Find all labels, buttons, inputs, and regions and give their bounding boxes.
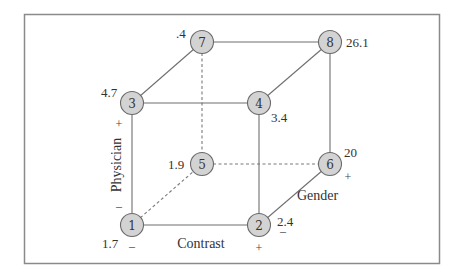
value-node-6: 20	[344, 145, 357, 160]
value-node-8: 26.1	[346, 35, 369, 50]
node-7: 7	[191, 31, 214, 54]
node-label: 7	[198, 36, 206, 50]
contrast-low-sign: –	[128, 239, 136, 253]
node-label: 4	[255, 97, 263, 111]
node-2: 2	[248, 214, 271, 237]
axis-label-gender: Gender	[297, 188, 339, 203]
node-label: 3	[128, 97, 136, 111]
physician-high-sign: +	[116, 117, 123, 131]
node-label: 6	[326, 158, 334, 172]
axis-label-physician: Physician	[109, 138, 124, 192]
value-node-1: 1.7	[102, 236, 119, 251]
node-3: 3	[121, 92, 144, 115]
node-6: 6	[319, 153, 342, 176]
contrast-high-sign: +	[256, 241, 263, 255]
value-node-7: .4	[176, 26, 186, 41]
cube-diagram: 7 8 3 4 5 6 1 2 .4 26.1 4.7 3.4 1.9 20 1…	[0, 0, 462, 278]
node-label: 8	[326, 36, 334, 50]
node-label: 1	[128, 219, 136, 233]
node-4: 4	[248, 92, 271, 115]
value-node-4: 3.4	[271, 110, 288, 125]
gender-high-sign: +	[345, 170, 352, 184]
node-5: 5	[191, 153, 214, 176]
node-label: 5	[198, 158, 206, 172]
axis-label-contrast: Contrast	[177, 236, 225, 251]
node-label: 2	[255, 219, 263, 233]
node-1: 1	[121, 214, 144, 237]
gender-low-sign: –	[279, 224, 287, 238]
diagram-frame	[25, 15, 440, 264]
value-node-5: 1.9	[168, 157, 184, 172]
node-8: 8	[319, 31, 342, 54]
value-node-3: 4.7	[101, 85, 118, 100]
physician-low-sign: –	[115, 199, 123, 213]
